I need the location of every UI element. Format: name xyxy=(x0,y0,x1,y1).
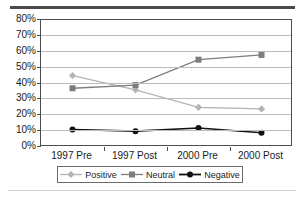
y-axis-tick-label: 10% xyxy=(2,125,36,135)
y-axis-tick xyxy=(37,98,41,99)
y-axis-tick-label: 70% xyxy=(2,30,36,40)
data-point-marker xyxy=(69,72,76,79)
legend-item-neutral[interactable]: Neutral xyxy=(121,170,175,180)
y-axis-tick-label: 30% xyxy=(2,93,36,103)
y-axis-tick xyxy=(37,35,41,36)
data-point-marker xyxy=(68,171,75,178)
y-axis-tick xyxy=(37,146,41,147)
legend-marker-diamond-icon xyxy=(60,170,82,179)
data-point-marker xyxy=(196,57,202,63)
plot-area xyxy=(40,19,292,146)
legend-item-negative[interactable]: Negative xyxy=(179,170,240,180)
x-axis-labels: 1997 Pre1997 Post2000 Pre2000 Post xyxy=(40,150,292,164)
y-axis-tick xyxy=(37,67,41,68)
data-point-marker xyxy=(259,52,265,58)
gridline xyxy=(41,130,291,131)
x-axis-tick-label: 1997 Pre xyxy=(51,150,92,162)
series-positive xyxy=(69,72,265,113)
series-neutral xyxy=(70,52,265,91)
data-point-marker xyxy=(133,128,139,134)
y-axis-tick xyxy=(37,51,41,52)
legend-marker-square-icon xyxy=(121,170,143,179)
y-axis-tick xyxy=(37,130,41,131)
x-axis-tick-label: 1997 Post xyxy=(112,150,157,162)
y-axis-tick-label: 60% xyxy=(2,46,36,56)
chart-canvas xyxy=(41,20,293,147)
gridline xyxy=(41,35,291,36)
data-point-marker xyxy=(70,85,76,91)
x-axis-tick-label: 2000 Pre xyxy=(177,150,218,162)
legend-label: Negative xyxy=(204,170,240,180)
y-axis-labels: 0%10%20%30%40%50%60%70%80% xyxy=(0,19,36,146)
y-axis-tick-label: 80% xyxy=(2,14,36,24)
gridline xyxy=(41,114,291,115)
top-horizontal-rule xyxy=(10,6,295,9)
chart-legend: PositiveNeutralNegative xyxy=(57,166,243,183)
bottom-horizontal-rule xyxy=(8,190,296,191)
series-line xyxy=(73,76,262,109)
gridline xyxy=(41,51,291,52)
data-point-marker xyxy=(195,104,202,111)
data-point-marker xyxy=(129,172,135,178)
y-axis-tick xyxy=(37,19,41,20)
y-axis-tick-label: 40% xyxy=(2,78,36,88)
gridline xyxy=(41,98,291,99)
gridline xyxy=(41,83,291,84)
data-point-marker xyxy=(258,105,265,112)
y-axis-tick-label: 20% xyxy=(2,109,36,119)
gridline xyxy=(41,67,291,68)
figure-container: Graph 1: Responses 0%10%20%30%40%50%60%7… xyxy=(0,0,302,197)
legend-label: Neutral xyxy=(146,170,175,180)
y-axis-tick xyxy=(37,83,41,84)
legend-marker-circle-icon xyxy=(179,170,201,179)
y-axis-tick xyxy=(37,114,41,115)
x-axis-tick-label: 2000 Post xyxy=(238,150,283,162)
y-axis-tick-label: 0% xyxy=(2,141,36,151)
legend-label: Positive xyxy=(85,170,117,180)
legend-item-positive[interactable]: Positive xyxy=(60,170,117,180)
data-point-marker xyxy=(187,172,193,178)
y-axis-tick-label: 50% xyxy=(2,62,36,72)
